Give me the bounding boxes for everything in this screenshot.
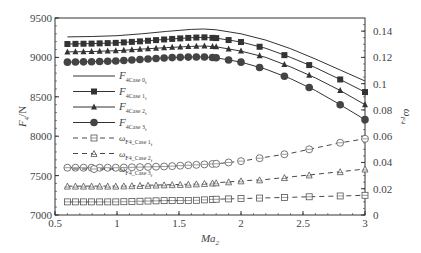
x-tick-label: 1 xyxy=(114,217,120,229)
y2-axis-label: ωF4 xyxy=(399,109,414,125)
y2-tick-label: 0.08 xyxy=(373,104,393,116)
y-axis-label: F4/N xyxy=(16,106,31,128)
y2-tick-label: 0.12 xyxy=(373,51,392,63)
y2-tick-label: 0.1 xyxy=(373,78,387,90)
series-3 xyxy=(64,43,368,108)
y-tick-label: 9000 xyxy=(30,51,53,63)
y-tick-label: 8000 xyxy=(30,130,53,142)
x-tick-label: 2.5 xyxy=(296,217,310,229)
y-tick-label: 8500 xyxy=(30,91,53,103)
legend: F4Case 0fF4Case 1fF4Case 2fF4Case 3fωF4_… xyxy=(73,69,153,178)
legend-label: F4Case 3f xyxy=(118,116,147,132)
y2-tick-label: 0.04 xyxy=(373,156,393,168)
y2-tick-label: 0.02 xyxy=(373,183,392,195)
y-tick-label: 7000 xyxy=(30,209,53,221)
y-tick-label: 9500 xyxy=(30,12,53,24)
legend-label: ωF4_Case 1f xyxy=(119,133,153,147)
x-tick-label: 2 xyxy=(238,217,244,229)
series-4 xyxy=(64,53,369,123)
y2-tick-label: 0 xyxy=(373,209,379,221)
legend-label: F4Case 2f xyxy=(118,100,147,116)
series-5 xyxy=(64,192,368,205)
legend-label: F4Case 1f xyxy=(118,85,147,101)
legend-label: ωF4_Case 2f xyxy=(119,149,153,163)
x-tick-label: 1.5 xyxy=(172,217,186,229)
x-tick-label: 3 xyxy=(362,217,368,229)
chart: 0.511.522.5370007500800085009000950000.0… xyxy=(0,0,421,253)
y2-tick-label: 0.06 xyxy=(373,130,393,142)
chart-svg: 0.511.522.5370007500800085009000950000.0… xyxy=(0,0,421,253)
legend-label: F4Case 0f xyxy=(118,69,147,85)
x-axis-label: Ma2 xyxy=(200,232,220,247)
y-tick-label: 7500 xyxy=(30,170,53,182)
y2-tick-label: 0.14 xyxy=(373,25,393,37)
